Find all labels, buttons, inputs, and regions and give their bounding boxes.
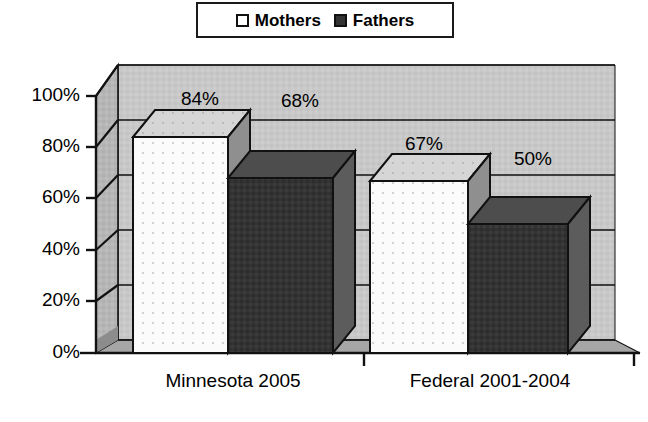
y-tick-label-20: 20% xyxy=(42,289,80,310)
y-tick-label-40: 40% xyxy=(42,238,80,259)
bar-chart: Mothers Fathers xyxy=(0,0,648,422)
bar-side-face xyxy=(568,197,590,353)
y-tick-label-80: 80% xyxy=(42,135,80,156)
bar-front-face xyxy=(228,178,333,353)
y-tick-label-0: 0% xyxy=(53,341,81,362)
value-label-mothers-minnesota: 84% xyxy=(181,88,219,109)
bar-front-face xyxy=(468,224,568,353)
bar-front-face xyxy=(370,181,468,353)
value-label-fathers-minnesota: 68% xyxy=(281,90,319,111)
bar-side-face xyxy=(333,151,355,353)
bar-fathers-federal xyxy=(468,197,590,353)
bar-fathers-minnesota xyxy=(228,151,355,353)
bar-front-face xyxy=(133,137,228,353)
y-tick-label-100: 100% xyxy=(31,84,80,105)
y-tick-label-60: 60% xyxy=(42,186,80,207)
x-category-label-minnesota: Minnesota 2005 xyxy=(165,370,300,391)
value-label-fathers-federal: 50% xyxy=(514,148,552,169)
left-wall xyxy=(96,65,118,353)
x-axis xyxy=(96,353,640,366)
plot-area: 100% 80% 60% 40% 20% 0% xyxy=(0,0,648,422)
x-category-label-federal: Federal 2001-2004 xyxy=(410,370,571,391)
y-axis xyxy=(80,96,96,353)
value-label-mothers-federal: 67% xyxy=(405,133,443,154)
